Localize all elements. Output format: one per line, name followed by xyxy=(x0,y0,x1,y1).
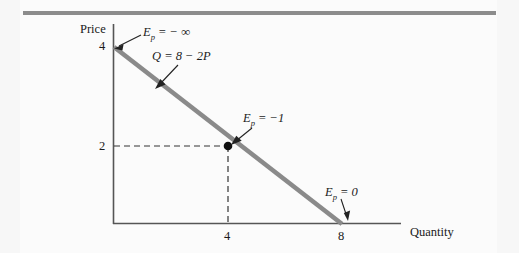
x-axis-title: Quantity xyxy=(410,226,454,239)
unit-elastic-point-marker xyxy=(224,142,233,151)
y-tick-label-2: 2 xyxy=(99,140,105,153)
annotation-perfectly-elastic-var: E xyxy=(143,25,151,39)
arrow-unit-elastic xyxy=(231,128,252,145)
annotation-unit-elastic-rest: = −1 xyxy=(255,111,284,125)
x-tick-label-4: 4 xyxy=(224,230,230,243)
y-axis-title: Price xyxy=(80,23,106,36)
x-tick-label-8: 8 xyxy=(338,230,344,243)
annotation-perfectly-inelastic-rest: = 0 xyxy=(337,185,358,199)
annotation-perfectly-inelastic-var: E xyxy=(325,185,333,199)
annotation-unit-elastic-var: E xyxy=(243,111,251,125)
annotation-perfectly-elastic-rest: = − ∞ xyxy=(155,25,190,39)
annotation-perfectly-elastic: Ep = − ∞ xyxy=(143,26,190,41)
annotation-unit-elastic: Ep = −1 xyxy=(243,112,284,127)
arrow-perfectly-inelastic xyxy=(341,199,350,221)
annotation-perfectly-inelastic: Ep = 0 xyxy=(325,186,358,201)
figure-page: Price Quantity 4 2 4 8 Ep = − ∞ Q = 8 − … xyxy=(0,0,519,253)
y-tick-label-4: 4 xyxy=(99,40,105,53)
annotation-demand-equation: Q = 8 − 2P xyxy=(152,50,211,63)
arrow-perfectly-elastic xyxy=(114,35,141,51)
